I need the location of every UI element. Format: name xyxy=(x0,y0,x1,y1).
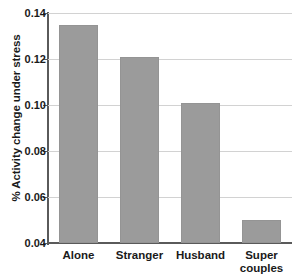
y-axis-tick-label: 0.04 xyxy=(12,238,46,249)
x-axis-tick-label-line: couples xyxy=(219,262,299,275)
x-axis-tick-label-line: Super xyxy=(219,249,299,262)
x-axis-tick-label: Supercouples xyxy=(219,249,299,275)
y-axis-tick-label: 0.06 xyxy=(12,192,46,203)
y-axis-tick-label: 0.14 xyxy=(12,8,46,19)
bar xyxy=(181,103,220,243)
y-axis-tick-label: 0.10 xyxy=(12,100,46,111)
bar xyxy=(59,25,98,244)
y-axis-tick-label: 0.08 xyxy=(12,146,46,157)
y-axis-tick-label: 0.12 xyxy=(12,54,46,65)
gridline xyxy=(48,13,292,14)
bar xyxy=(120,57,159,243)
plot-area xyxy=(48,13,292,243)
bar-chart: % Activity change under stress 0.040.060… xyxy=(0,0,298,278)
bar xyxy=(242,220,281,243)
